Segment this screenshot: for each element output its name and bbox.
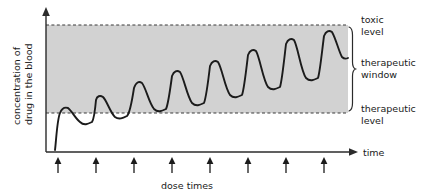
dose-arrow-3 [131,157,138,173]
therapeutic-level-label-line1: therapeutic [361,103,416,114]
therapeutic-window-brace [349,27,356,111]
dose-arrow-7 [283,157,290,173]
dose-arrow-group [55,157,328,173]
y-axis-label-line1: concentration of [11,46,22,125]
x-axis-arrowhead-icon [349,148,358,156]
diagram-canvas: concentration of drug in the blood toxic… [0,0,427,194]
therapeutic-window-label-line1: therapeutic [361,57,416,68]
dose-arrow-4 [169,157,176,173]
dose-arrow-1 [55,157,62,173]
toxic-level-label-line2: level [361,26,384,37]
dose-arrow-8 [321,157,328,173]
therapeutic-window-label-line2: window [361,69,397,80]
y-axis-arrowhead-icon [42,7,50,16]
therapeutic-level-label-line2: level [361,115,384,126]
dose-times-label: dose times [161,180,213,191]
dose-arrow-2 [93,157,100,173]
dose-arrow-6 [245,157,252,173]
y-axis-label-line2: drug in the blood [23,43,34,125]
x-axis-label: time [363,147,385,158]
toxic-level-label-line1: toxic [361,14,384,25]
dose-arrow-5 [207,157,214,173]
drug-concentration-diagram: concentration of drug in the blood toxic… [0,0,427,194]
